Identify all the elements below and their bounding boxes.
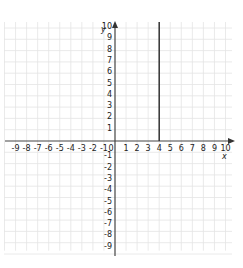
coordinate-plane: -9-8-7-6-5-4-3-2-1012345678910 109876543… (0, 0, 243, 268)
x-tick-label: -3 (78, 144, 86, 153)
x-axis-label: x (221, 152, 227, 161)
x-tick-label: -9 (12, 144, 20, 153)
x-tick-label: 9 (212, 144, 217, 153)
x-tick-label: -7 (34, 144, 42, 153)
x-tick-label: 3 (146, 144, 151, 153)
y-tick-label: -8 (104, 230, 112, 239)
y-tick-label: -7 (104, 219, 112, 228)
y-tick-label: 8 (107, 45, 112, 54)
x-tick-label: -6 (45, 144, 53, 153)
y-tick-label: -9 (104, 242, 112, 251)
x-tick-label: -5 (56, 144, 64, 153)
x-tick-label: 8 (201, 144, 206, 153)
y-tick-labels: 10987654321-1-2-3-4-5-6-7-8-9 (102, 22, 112, 251)
x-tick-label: 7 (190, 144, 195, 153)
y-tick-label: 4 (107, 90, 112, 99)
x-tick-label: -4 (67, 144, 75, 153)
y-tick-label: -6 (104, 208, 112, 217)
grid-lines (4, 22, 232, 254)
x-tick-label: -2 (89, 144, 97, 153)
y-tick-label: 6 (107, 67, 112, 76)
y-tick-label: -5 (104, 197, 112, 206)
y-tick-label: -3 (104, 174, 112, 183)
x-tick-label: -8 (23, 144, 31, 153)
x-tick-label: 1 (124, 144, 129, 153)
y-tick-label: 9 (107, 33, 112, 42)
y-tick-label: 7 (107, 56, 112, 65)
y-tick-label: 1 (107, 124, 112, 133)
y-axis-label: y (100, 25, 106, 34)
x-tick-label: 6 (179, 144, 184, 153)
y-tick-label: 5 (107, 79, 112, 88)
axes (5, 21, 235, 256)
y-tick-label: -1 (104, 151, 112, 160)
x-tick-labels: -9-8-7-6-5-4-3-2-1012345678910 (12, 144, 231, 153)
x-tick-label: 5 (168, 144, 173, 153)
y-tick-label: 2 (107, 112, 112, 121)
y-tick-label: -2 (104, 163, 112, 172)
y-axis-arrow-icon (112, 21, 118, 28)
y-tick-label: 3 (107, 101, 112, 110)
y-tick-label: -4 (104, 185, 112, 194)
x-tick-label: 2 (135, 144, 140, 153)
x-tick-label: 4 (157, 144, 162, 153)
